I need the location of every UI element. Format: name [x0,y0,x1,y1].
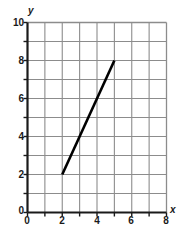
y-tick-label-0: 0 [2,206,24,216]
x-tick-label-8: 8 [158,216,174,226]
x-tick-label-4: 4 [89,216,105,226]
x-tick-label-0: 0 [19,216,35,226]
y-tick-label-2: 2 [2,170,24,180]
x-tick-label-2: 2 [54,216,70,226]
y-axis-label: y [28,6,34,16]
x-tick-label-6: 6 [123,216,139,226]
y-tick-label-4: 4 [2,132,24,142]
y-tick-label-8: 8 [2,56,24,66]
plot-area [0,0,185,232]
x-axis-label: x [170,205,176,215]
y-tick-label-10: 10 [2,18,24,28]
y-tick-label-6: 6 [2,94,24,104]
graph-figure: y x 10 8 6 4 2 0 0 2 4 6 8 [0,0,185,232]
